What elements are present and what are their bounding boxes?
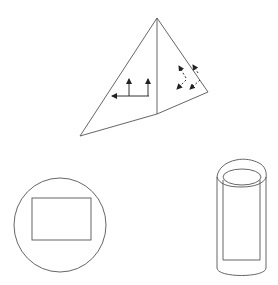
cylinder-with-rectangle <box>217 159 266 275</box>
arrow-up-left-icon <box>179 66 186 78</box>
pyramid <box>80 18 208 136</box>
diagram-canvas <box>0 0 278 285</box>
cylinder-bottom <box>217 268 266 276</box>
arrow-down-left-icon <box>177 80 186 89</box>
pyramid-outline <box>80 18 208 136</box>
arrow-down-left-icon <box>190 80 200 89</box>
cylinder-top-inner <box>223 169 261 185</box>
left-face-arrows <box>112 79 149 96</box>
circle <box>14 178 106 272</box>
right-face-arrows <box>177 65 200 89</box>
inner-rectangle <box>32 198 91 240</box>
circle-with-rectangle <box>14 178 106 272</box>
